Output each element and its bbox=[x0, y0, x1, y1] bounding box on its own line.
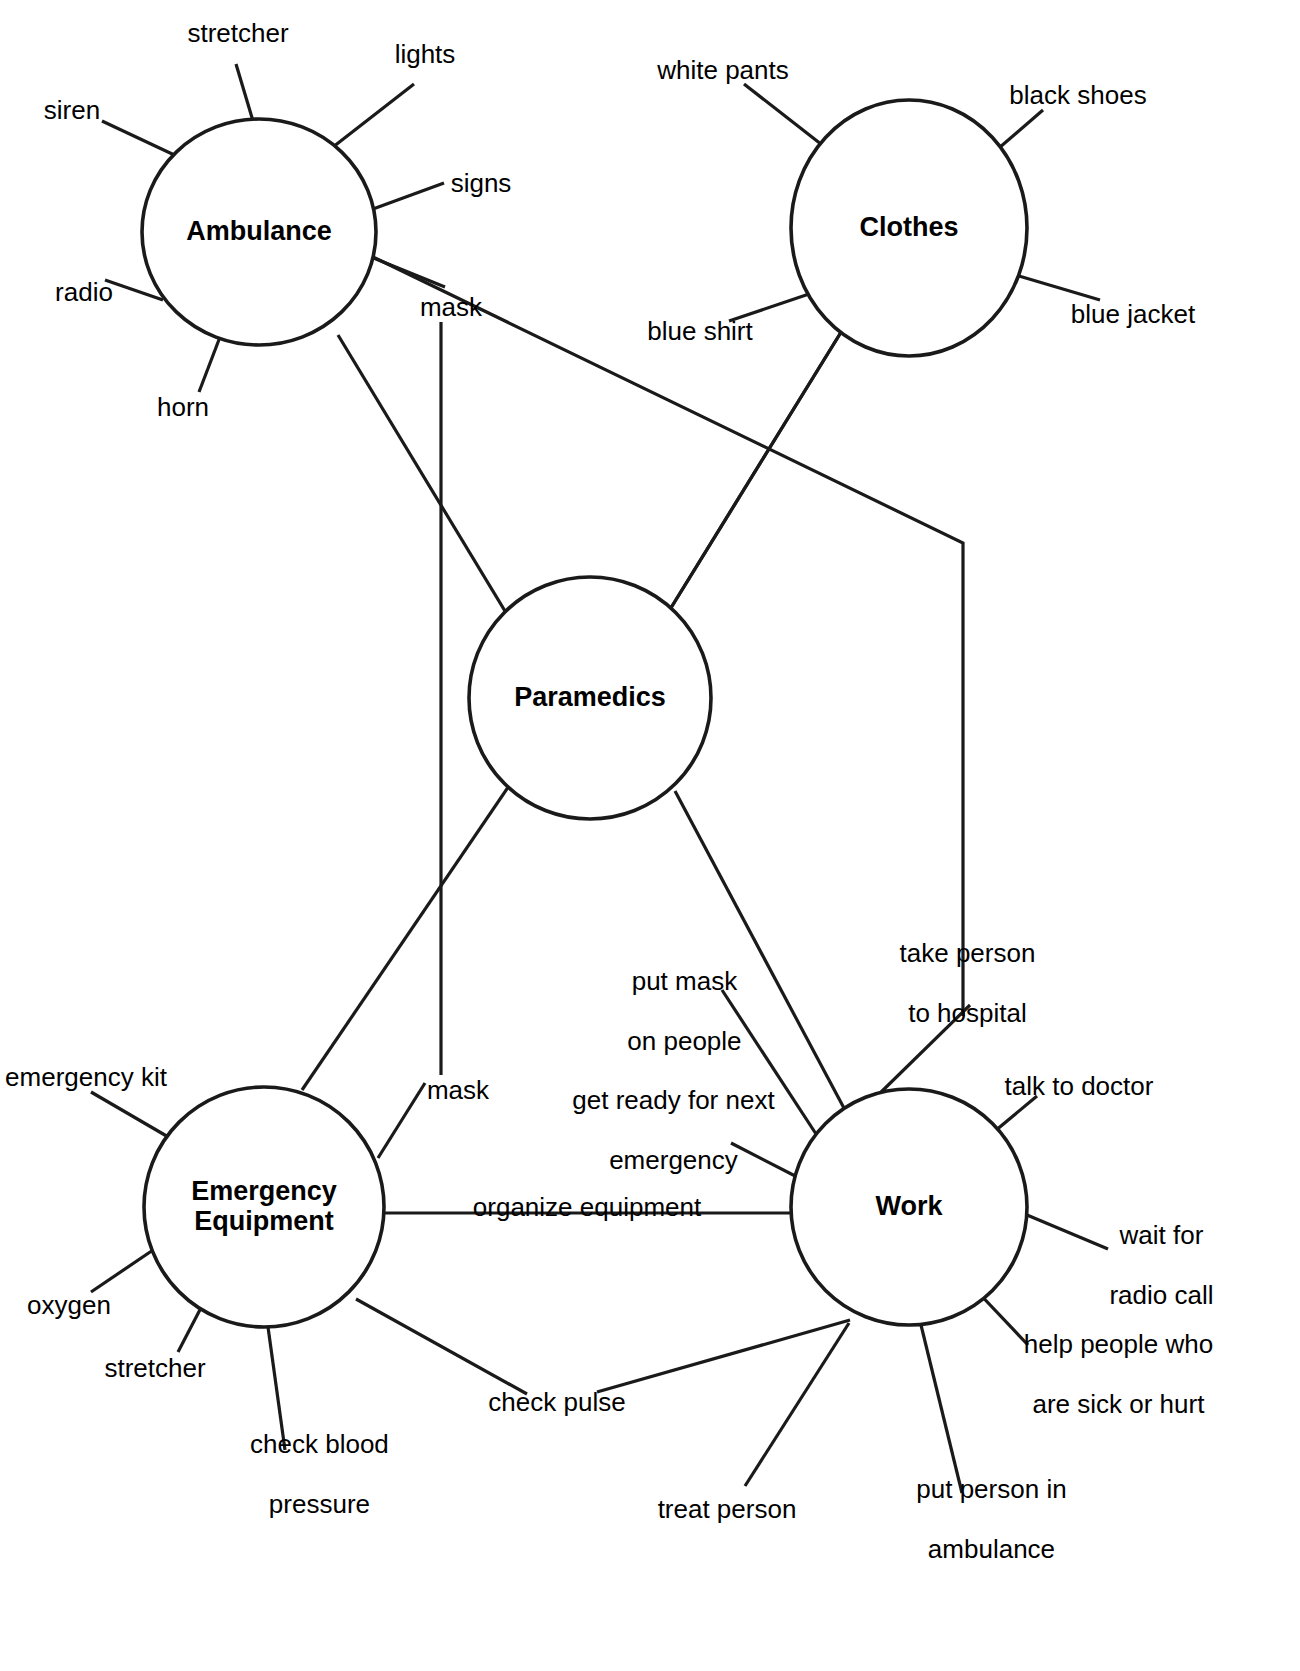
leaf-label-ambulance-horn: horn bbox=[157, 392, 209, 422]
leaf-label-clothes-white-pants: white pants bbox=[657, 55, 789, 85]
node-circle-emergency-equipment[interactable] bbox=[144, 1087, 384, 1327]
leaf-label-get-ready-line1: get ready for next bbox=[572, 1085, 774, 1115]
leaf-label-ambulance-radio: radio bbox=[55, 277, 113, 307]
edge-clothes-blue-jacket bbox=[1009, 273, 1100, 300]
leaf-label-ambulance-lights: lights bbox=[395, 39, 456, 69]
edge-equipment-mask-lower bbox=[378, 1083, 425, 1158]
leaf-label-work-treat-person: treat person bbox=[658, 1494, 797, 1524]
leaf-label-equipment-stretcher: stretcher bbox=[104, 1353, 205, 1383]
leaf-label-put-mask-line2: on people bbox=[627, 1026, 741, 1056]
leaf-label-put-person-line2: ambulance bbox=[928, 1534, 1055, 1564]
edge-work-treat-person bbox=[745, 1323, 849, 1486]
node-circle-paramedics[interactable] bbox=[469, 577, 711, 819]
edge-equipment-check-pulse bbox=[356, 1299, 527, 1394]
leaf-label-take-person-line2: to hospital bbox=[908, 998, 1027, 1028]
leaf-label-check-blood-pressure-line2: pressure bbox=[269, 1489, 370, 1519]
leaf-label-clothes-black-shoes: black shoes bbox=[1009, 80, 1146, 110]
edge-equipment-oxygen bbox=[91, 1248, 156, 1292]
leaf-label-help-people-line1: help people who bbox=[1024, 1329, 1213, 1359]
leaf-label-equipment-oxygen: oxygen bbox=[27, 1290, 111, 1320]
leaf-label-work-check-pulse: check pulse bbox=[488, 1387, 625, 1417]
node-circle-work[interactable] bbox=[791, 1089, 1027, 1325]
node-circle-ambulance[interactable] bbox=[142, 119, 376, 345]
leaf-label-wait-radio-line1: wait for bbox=[1120, 1220, 1204, 1250]
edge-ambulance-stretcher bbox=[236, 64, 253, 121]
node-circle-clothes[interactable] bbox=[791, 100, 1027, 356]
leaf-label-ambulance-stretcher: stretcher bbox=[187, 18, 288, 48]
edge-ambulance-lights bbox=[333, 84, 414, 147]
mind-map-canvas: Ambulance Clothes Paramedics Emergency E… bbox=[0, 0, 1300, 1671]
leaf-label-work-put-person-in-ambulance: put person in ambulance bbox=[887, 1444, 1066, 1595]
edge-paramedics-equipment bbox=[302, 780, 513, 1090]
leaf-label-clothes-blue-jacket: blue jacket bbox=[1071, 299, 1195, 329]
leaf-label-work-get-ready: get ready for next emergency bbox=[543, 1055, 774, 1206]
leaf-label-work-talk-to-doctor: talk to doctor bbox=[1005, 1071, 1154, 1101]
edge-ambulance-horn bbox=[199, 337, 220, 392]
leaf-label-equipment-check-blood-pressure: check blood pressure bbox=[221, 1399, 389, 1550]
leaf-label-get-ready-line2: emergency bbox=[609, 1145, 738, 1175]
leaf-label-help-people-line2: are sick or hurt bbox=[1032, 1389, 1204, 1419]
leaf-label-equipment-emergency-kit: emergency kit bbox=[5, 1062, 167, 1092]
edge-ambulance-signs bbox=[373, 183, 444, 209]
edge-clothes-work bbox=[661, 329, 843, 624]
leaf-label-work-help-people: help people who are sick or hurt bbox=[995, 1299, 1213, 1450]
leaf-label-put-person-line1: put person in bbox=[916, 1474, 1066, 1504]
leaf-label-ambulance-mask: mask bbox=[420, 292, 482, 322]
leaf-label-take-person-line1: take person bbox=[900, 938, 1036, 968]
leaf-label-equipment-mask: mask bbox=[427, 1075, 489, 1105]
leaf-label-clothes-blue-shirt: blue shirt bbox=[647, 316, 753, 346]
leaf-label-work-organize-equipment: organize equipment bbox=[473, 1192, 701, 1222]
leaf-label-ambulance-siren: siren bbox=[44, 95, 100, 125]
leaf-label-ambulance-signs: signs bbox=[451, 168, 512, 198]
leaf-label-work-take-person-to-hospital: take person to hospital bbox=[871, 908, 1036, 1059]
leaf-label-check-blood-pressure-line1: check blood bbox=[250, 1429, 389, 1459]
leaf-label-put-mask-line1: put mask bbox=[632, 966, 738, 996]
edge-ambulance-paramedics bbox=[338, 335, 511, 621]
edge-clothes-white-pants bbox=[744, 84, 826, 148]
